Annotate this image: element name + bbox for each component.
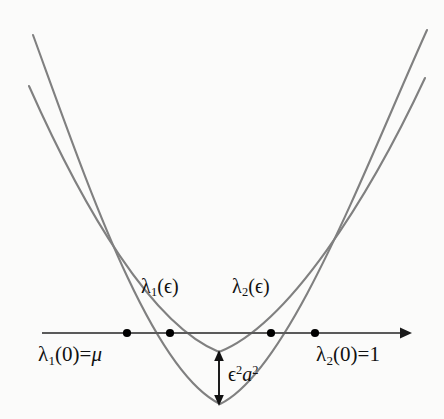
a-glyph: a <box>242 363 252 385</box>
lambda-1-parabola-path <box>29 78 425 352</box>
label-lambda-2-epsilon: λ2(ϵ) <box>232 276 270 299</box>
axis-arrowhead-icon <box>400 328 412 339</box>
lambda-glyph: λ <box>316 342 326 366</box>
root-marker <box>311 329 319 337</box>
root-marker <box>123 329 131 337</box>
label-lambda-1-epsilon: λ1(ϵ) <box>141 276 179 299</box>
equals-sign: = <box>80 342 92 366</box>
lambda-argument: (ϵ) <box>157 275 178 297</box>
label-lambda-2-zero-equals-one: λ2(0)=1 <box>316 344 380 367</box>
root-marker <box>267 329 275 337</box>
math-figure: λ1(ϵ) λ2(ϵ) λ1(0)=μ λ2(0)=1 ϵ2a2 <box>0 0 444 419</box>
root-marker <box>166 329 174 337</box>
lambda-argument: (0) <box>333 342 358 366</box>
lambda-glyph: λ <box>38 342 48 366</box>
lambda-glyph: λ <box>232 275 242 297</box>
epsilon-glyph: ϵ <box>228 363 236 385</box>
lambda-argument: (0) <box>55 342 80 366</box>
label-epsilon-squared-a-squared: ϵ2a2 <box>228 364 259 384</box>
equals-sign: = <box>358 342 370 366</box>
label-lambda-1-zero-equals-mu: λ1(0)=μ <box>38 344 102 367</box>
value-one: 1 <box>369 342 380 366</box>
a-exponent: 2 <box>252 363 258 377</box>
mu-glyph: μ <box>91 342 102 366</box>
lambda-argument: (ϵ) <box>248 275 269 297</box>
lambda-glyph: λ <box>141 275 151 297</box>
